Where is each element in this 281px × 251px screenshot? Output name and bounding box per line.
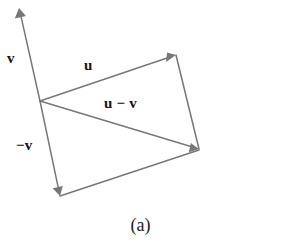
figure-caption: (a) [0,216,281,234]
vector-label-u: u [84,58,93,73]
vector-label-u-minus-v: u − v [104,96,137,111]
vector-figure: v u −v u − v (a) [0,0,281,251]
vector-label-negative-v: −v [16,138,32,153]
vector-label-v: v [7,51,15,66]
vector-diagram-canvas [0,0,281,251]
figure-background [0,0,281,251]
